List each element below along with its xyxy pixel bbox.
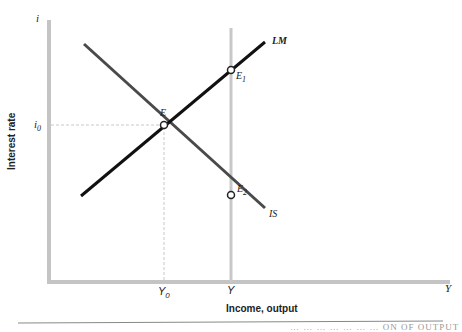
y-axis [47, 20, 51, 284]
point-e2 [228, 192, 235, 199]
y-axis-symbol: i [36, 12, 39, 24]
y0-label: Y0 [158, 285, 170, 300]
y-axis-label: Interest rate [6, 113, 17, 170]
x-axis [47, 280, 450, 284]
e1-sub: 1 [242, 75, 246, 84]
y-output-label: Y [227, 284, 234, 296]
figure-caption: … … … … … … … ON OF OUTPUT [290, 322, 459, 332]
point-e-label: E [160, 107, 166, 118]
point-e [161, 122, 168, 129]
lm-curve-label: LM [272, 35, 287, 46]
point-e1 [228, 67, 235, 74]
is-curve-label: IS [269, 208, 277, 219]
x-axis-label: Income, output [226, 303, 298, 314]
i0-sub: 0 [37, 124, 41, 133]
i0-label: i0 [34, 118, 41, 133]
point-e2-label: E2 [237, 183, 247, 197]
x-axis-symbol: Y [445, 282, 451, 294]
y0-sub: 0 [165, 291, 169, 300]
point-e1-label: E1 [236, 70, 246, 84]
e2-sub: 2 [243, 188, 247, 197]
